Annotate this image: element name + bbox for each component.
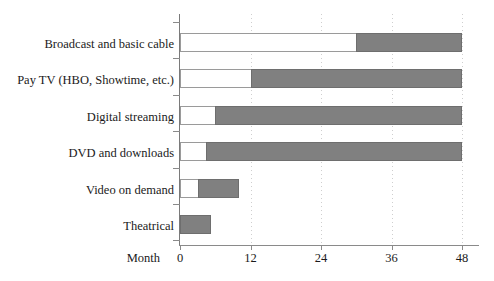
x-axis-tick-0 <box>180 245 181 250</box>
bar-segment-empty <box>180 106 215 125</box>
bar-segment-empty <box>180 142 206 161</box>
y-axis-tick <box>173 58 180 59</box>
gridline-48 <box>462 14 463 245</box>
bar-pay-tv <box>180 69 462 88</box>
x-axis-tick-36 <box>392 245 393 250</box>
bar-segment-empty <box>180 69 251 88</box>
bar-theatrical <box>180 215 211 234</box>
bar-segment-filled <box>215 106 462 125</box>
category-label-broadcast-and-basic-cable: Broadcast and basic cable <box>0 38 174 51</box>
y-axis-tick <box>173 204 180 205</box>
x-axis-tick-12 <box>251 245 252 250</box>
release-window-bar-chart: Broadcast and basic cable Pay TV (HBO, S… <box>0 0 494 281</box>
x-tick-label-0: 0 <box>177 252 183 265</box>
bar-segment-empty <box>180 179 198 198</box>
bar-broadcast-and-basic-cable <box>180 33 462 52</box>
x-axis-title: Month <box>127 252 160 265</box>
bar-segment-filled <box>356 33 462 52</box>
x-tick-label-48: 48 <box>456 252 469 265</box>
bar-dvd-and-downloads <box>180 142 462 161</box>
category-label-dvd-and-downloads: DVD and downloads <box>0 147 174 160</box>
category-label-theatrical: Theatrical <box>0 220 174 233</box>
bar-segment-filled <box>198 179 239 198</box>
bar-segment-filled <box>206 142 462 161</box>
bar-video-on-demand <box>180 179 239 198</box>
category-label-pay-tv: Pay TV (HBO, Showtime, etc.) <box>0 74 174 87</box>
category-label-digital-streaming: Digital streaming <box>0 111 174 124</box>
bar-digital-streaming <box>180 106 462 125</box>
bar-segment-filled <box>251 69 463 88</box>
x-tick-label-36: 36 <box>385 252 398 265</box>
x-axis-tick-48 <box>462 245 463 250</box>
category-label-video-on-demand: Video on demand <box>0 184 174 197</box>
y-axis-tick <box>173 22 180 23</box>
bar-segment-empty <box>180 33 356 52</box>
x-axis-line <box>179 245 479 246</box>
y-axis-tick <box>173 131 180 132</box>
y-axis-tick <box>173 240 180 241</box>
y-axis-tick <box>173 168 180 169</box>
bar-segment-filled <box>180 215 211 234</box>
x-tick-label-12: 12 <box>244 252 257 265</box>
x-tick-label-24: 24 <box>315 252 328 265</box>
x-axis-tick-24 <box>321 245 322 250</box>
y-axis-tick <box>173 95 180 96</box>
